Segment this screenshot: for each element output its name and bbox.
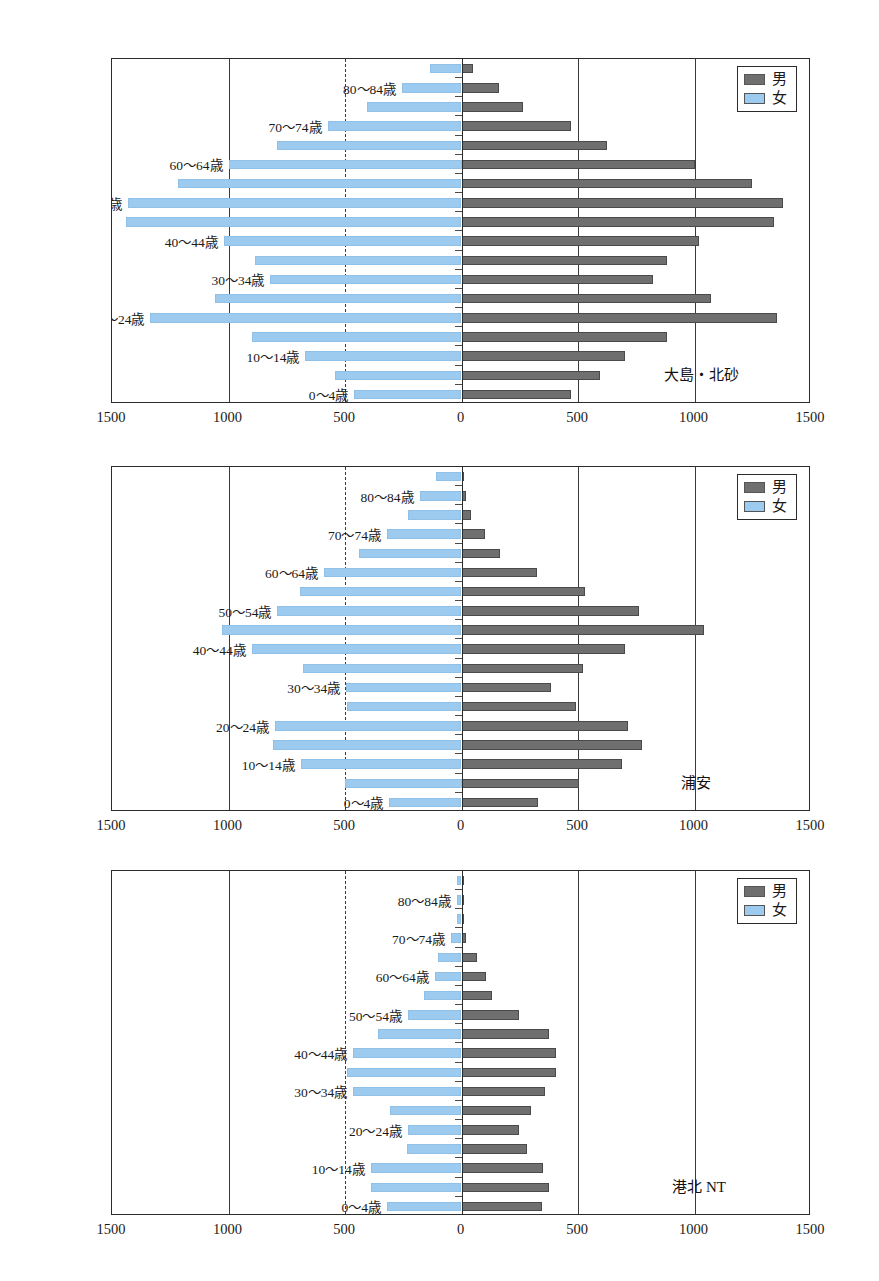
axis-tick [455, 211, 462, 212]
axis-tick [455, 581, 462, 582]
x-axis-labels-2: 15001000500050010001500 [111, 815, 810, 835]
axis-zero-line [462, 871, 463, 1214]
axis-zero-line [462, 467, 463, 810]
bar-male [462, 1144, 527, 1154]
axis-tick [455, 619, 462, 620]
bar-female [178, 179, 461, 189]
bar-male [462, 198, 784, 208]
bar-female [255, 256, 461, 266]
bar-rows-3: 0～4歳10～14歳20～24歳30～34歳40～44歳50～54歳60～64歳… [112, 871, 809, 1214]
bar-female [408, 1010, 462, 1020]
age-group-label: 0～4歳 [309, 384, 349, 403]
x-tick-label: 1500 [796, 409, 825, 426]
bar-male [462, 1125, 519, 1135]
x-tick-label: 1500 [97, 409, 126, 426]
bar-male [462, 568, 538, 578]
age-group-label: 40～44歳 [193, 639, 246, 659]
legend-swatch-male-icon [744, 74, 765, 85]
axis-tick [455, 792, 462, 793]
x-tick-label: 500 [333, 817, 355, 834]
x-tick-label: 500 [566, 409, 588, 426]
legend-label-female: 女 [772, 903, 787, 918]
bar-female [301, 759, 462, 769]
axis-tick [455, 504, 462, 505]
axis-tick [455, 96, 462, 97]
bar-male [462, 740, 643, 750]
population-pyramid-page: 0～4歳10～14歳20～24歳30～34歳40～44歳50～54歳60～64歳… [0, 0, 879, 1281]
bar-female [424, 991, 461, 1001]
bar-male [462, 179, 752, 189]
bar-female [359, 549, 462, 559]
legend-swatch-female-icon [744, 501, 765, 512]
axis-tick [455, 345, 462, 346]
bar-male [462, 1029, 549, 1039]
legend-label-male: 男 [772, 480, 787, 495]
x-axis-labels-3: 15001000500050010001500 [111, 1219, 810, 1239]
bar-male [462, 1183, 549, 1193]
axis-tick [455, 715, 462, 716]
axis-tick [455, 1177, 462, 1178]
bar-male [462, 256, 667, 266]
bar-female [150, 313, 461, 323]
axis-tick [455, 1023, 462, 1024]
bar-male [462, 83, 499, 93]
axis-tick [455, 927, 462, 928]
age-group-label: 10～14歳 [242, 754, 295, 774]
bar-male [462, 1068, 556, 1078]
legend-row-male: 男 [744, 882, 787, 901]
legend-swatch-male-icon [744, 886, 765, 897]
bar-female [347, 702, 461, 712]
bar-male [462, 275, 653, 285]
axis-tick [455, 1138, 462, 1139]
age-group-label: 20～24歳 [216, 716, 269, 736]
bar-female [367, 102, 461, 112]
plot-area-2: 0～4歳10～14歳20～24歳30～34歳40～44歳50～54歳60～64歳… [111, 466, 810, 811]
age-group-label: 70～74歳 [392, 928, 445, 948]
axis-tick [455, 1062, 462, 1063]
bar-male [462, 759, 623, 769]
bar-male [462, 529, 485, 539]
bar-male [462, 644, 625, 654]
axis-tick [455, 115, 462, 116]
x-tick-label: 1500 [97, 1221, 126, 1238]
bar-male [462, 972, 486, 982]
bar-male [462, 1087, 546, 1097]
x-axis-labels-1: 15001000500050010001500 [111, 407, 810, 427]
bar-female [378, 1029, 462, 1039]
legend-swatch-female-icon [744, 905, 765, 916]
axis-tick [455, 947, 462, 948]
bar-male [462, 606, 639, 616]
bar-female [354, 390, 461, 400]
age-group-label: 60～64歳 [376, 966, 429, 986]
legend-row-male: 男 [744, 70, 787, 89]
bar-male [462, 313, 778, 323]
bar-female [215, 294, 462, 304]
age-group-label: 80～84歳 [398, 890, 451, 910]
bar-male [462, 1202, 542, 1212]
bar-female [408, 510, 462, 520]
bar-female [335, 371, 462, 381]
axis-tick [455, 985, 462, 986]
bar-female [229, 160, 462, 170]
legend-label-male: 男 [772, 72, 787, 87]
legend-1: 男 女 [737, 66, 797, 112]
bar-female [346, 683, 461, 693]
bar-female [328, 121, 462, 131]
axis-tick [455, 365, 462, 366]
bar-female [387, 1202, 462, 1212]
age-group-label: 10～14歳 [312, 1158, 365, 1178]
axis-tick [455, 250, 462, 251]
bar-female [435, 972, 462, 982]
bar-male [462, 1048, 556, 1058]
bar-female [451, 933, 461, 943]
axis-tick [455, 543, 462, 544]
age-group-label: 30～34歳 [211, 269, 264, 289]
axis-tick [455, 1100, 462, 1101]
age-group-label: 50～54歳 [349, 1005, 402, 1025]
bar-male [462, 332, 667, 342]
axis-zero-line [462, 59, 463, 402]
axis-tick [455, 307, 462, 308]
bar-male [462, 721, 629, 731]
age-group-label: 20～24歳 [111, 308, 144, 328]
x-tick-label: 1500 [796, 1221, 825, 1238]
